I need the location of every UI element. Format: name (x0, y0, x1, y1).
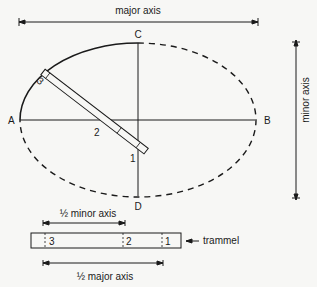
strip-mark-2: 2 (126, 236, 132, 247)
trammel-pointer (186, 239, 199, 243)
point-b-label: B (264, 115, 271, 126)
trammel-mark-3: 3 (35, 75, 46, 87)
half-minor-axis-label: ½ minor axis (60, 208, 117, 219)
major-axis-label: major axis (115, 5, 161, 16)
trammel-mark-2: 2 (94, 127, 100, 138)
half-minor-axis-dimension (43, 220, 125, 226)
major-axis-dimension (19, 18, 258, 26)
half-major-axis-label: ½ major axis (77, 271, 134, 282)
point-a-label: A (8, 115, 15, 126)
strip-mark-1: 1 (165, 236, 171, 247)
trammel-label: trammel (203, 235, 239, 246)
strip-mark-3: 3 (49, 236, 55, 247)
minor-axis-dimension (292, 40, 300, 200)
point-d-label: D (134, 201, 141, 212)
ellipse-diagram: major axis minor axis C A B D 3 2 1 ½ mi… (0, 0, 317, 287)
trammel-on-ellipse (41, 69, 148, 154)
point-c-label: C (134, 29, 141, 40)
minor-axis-label: minor axis (300, 77, 311, 123)
half-major-axis-dimension (43, 260, 163, 266)
trammel-mark-1: 1 (130, 153, 136, 164)
